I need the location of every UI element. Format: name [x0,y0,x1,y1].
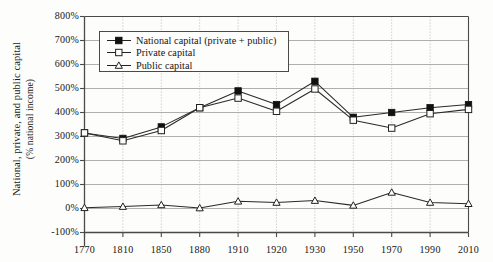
x-tick-label: 2010 [443,244,493,255]
chart-figure: National, private, and public capital (%… [0,0,493,262]
open-triangle-icon [106,60,132,71]
legend-item-label: National capital (private + public) [136,35,276,46]
chart-legend: National capital (private + public)Priva… [99,31,289,72]
legend-item-label: Private capital [136,47,195,58]
legend-item[interactable]: Private capital [106,47,288,60]
legend-item[interactable]: Public capital [106,59,288,72]
filled-square-icon [106,35,132,46]
open-square-icon [106,47,132,58]
legend-item-label: Public capital [136,60,192,71]
legend-item[interactable]: National capital (private + public) [106,34,288,47]
